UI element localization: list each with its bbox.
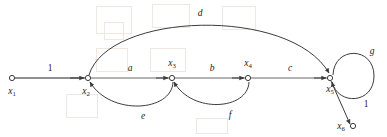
branch-gain-x4-x3: f <box>229 111 232 121</box>
node-x4[interactable] <box>245 75 250 80</box>
branch-gain-x5-x6: 1 <box>364 100 369 110</box>
branch-x3-x2 <box>90 82 173 106</box>
node-label-x3: x3 <box>168 59 176 70</box>
branch-gain-x2-x3: a <box>128 64 133 74</box>
node-label-x6: x6 <box>337 122 345 133</box>
node-label-x1: x1 <box>8 87 16 98</box>
node-label-x4: x4 <box>244 59 252 70</box>
branch-gain-x4-x5: c <box>288 64 292 74</box>
signal-flow-graph-figure: x1 x2 x3 x4 x5 x6 1 a b c d e f g 1 <box>0 0 387 137</box>
branch-gain-x2-x5: d <box>198 9 203 19</box>
branch-gain-x5-x5: g <box>370 47 375 57</box>
node-x1[interactable] <box>9 75 14 80</box>
branch-gain-x3-x2: e <box>141 112 145 122</box>
node-label-x2: x2 <box>82 87 90 98</box>
branch-x5-x5 <box>332 53 374 98</box>
branch-gain-x1-x2: 1 <box>48 64 53 74</box>
node-x6[interactable] <box>350 123 355 128</box>
branch-x4-x3 <box>174 82 249 105</box>
node-label-x5: x5 <box>326 85 334 96</box>
branch-gain-x3-x4: b <box>210 64 215 74</box>
node-x5[interactable] <box>327 75 332 80</box>
node-x3[interactable] <box>169 75 174 80</box>
graph-canvas <box>0 0 387 137</box>
node-x2[interactable] <box>85 75 90 80</box>
